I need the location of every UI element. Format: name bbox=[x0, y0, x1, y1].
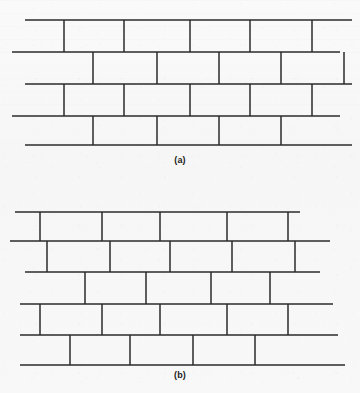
wall-elevation-b bbox=[0, 190, 360, 393]
figure-b-irregular-bond-wall bbox=[0, 190, 360, 393]
figure-a-caption: (a) bbox=[0, 155, 360, 165]
figure-b-caption: (b) bbox=[0, 370, 360, 380]
figure-page: (a) (b) bbox=[0, 0, 360, 393]
